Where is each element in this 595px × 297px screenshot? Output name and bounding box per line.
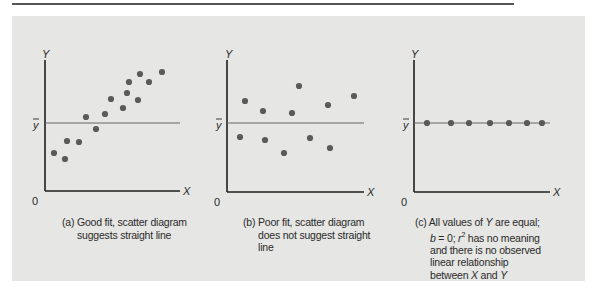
data-point (307, 135, 313, 141)
caption-c-line1: (c) All values of Y are equal; (415, 216, 540, 228)
data-point (126, 79, 132, 85)
data-point (281, 150, 287, 156)
data-point (242, 98, 248, 104)
data-point (135, 97, 141, 103)
data-point (296, 83, 302, 89)
origin-label: 0 (401, 196, 407, 208)
data-point (327, 145, 333, 151)
data-point (93, 126, 99, 132)
data-point (524, 120, 530, 126)
caption-b-line1: (b) Poor fit, scatter diagram (243, 216, 364, 228)
caption-c-line5: between X and Y (415, 269, 541, 282)
data-point (487, 120, 493, 126)
data-point (120, 105, 126, 111)
caption-b-line2: does not suggest straight (243, 229, 370, 242)
data-point (62, 156, 68, 162)
origin-label: 0 (214, 196, 220, 208)
caption-a-line2: suggests straight line (62, 229, 187, 242)
caption-b-line3: line (243, 241, 370, 254)
caption-c: (c) All values of Y are equal; b = 0; r2… (415, 216, 541, 281)
data-point (108, 96, 114, 102)
data-point (159, 69, 165, 75)
ybar-label: y (215, 119, 223, 131)
data-point (137, 71, 143, 77)
data-point (146, 79, 152, 85)
caption-c-line3: and there is no observed (415, 244, 541, 257)
data-point (64, 138, 70, 144)
caption-a-line1: (a) Good fit, scatter diagram (62, 216, 187, 228)
data-point (325, 102, 331, 108)
y-axis-label: Y (411, 48, 419, 60)
data-point (260, 108, 266, 114)
caption-c-line2: b = 0; r2 has no meaning (415, 229, 541, 244)
data-point (351, 93, 357, 99)
caption-c-line4: linear relationship (415, 256, 541, 269)
caption-b: (b) Poor fit, scatter diagram does not s… (243, 216, 370, 254)
x-axis-label: X (366, 186, 375, 198)
caption-a: (a) Good fit, scatter diagram suggests s… (62, 216, 187, 241)
data-point (466, 120, 472, 126)
data-point (102, 111, 108, 117)
data-point (51, 150, 57, 156)
data-point (448, 120, 454, 126)
data-point (424, 120, 430, 126)
y-axis-label: Y (225, 48, 233, 60)
x-axis-label: X (182, 185, 191, 197)
data-point (506, 120, 512, 126)
data-point (76, 139, 82, 145)
data-point (237, 134, 243, 140)
ybar-label: y (32, 119, 40, 131)
data-point (262, 137, 268, 143)
y-axis-label: Y (42, 48, 50, 60)
x-axis-label: X (552, 186, 561, 198)
origin-label: 0 (32, 195, 38, 207)
data-point (539, 120, 545, 126)
data-point (289, 110, 295, 116)
data-point (83, 114, 89, 120)
data-point (124, 90, 130, 96)
ybar-label: y (402, 119, 410, 131)
